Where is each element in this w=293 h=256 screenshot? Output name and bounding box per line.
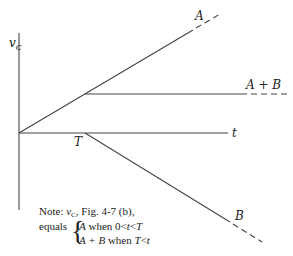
ramp-superposition-diagram: vC t A A + B B T Note: vC, Fig. 4-7 (b),…: [0, 0, 293, 256]
note-case-1: A when 0<t<T: [78, 220, 143, 232]
ramp-b-extension: [233, 224, 262, 242]
x-axis-label: t: [232, 126, 237, 140]
ramp-b-label: B: [234, 209, 244, 223]
note-line-1: Note: vC, Fig. 4-7 (b),: [39, 205, 135, 219]
note-equals: equals: [39, 220, 67, 232]
breakpoint-t-label: T: [74, 135, 83, 149]
ramp-a-label: A: [194, 9, 204, 23]
ramp-a-line: [19, 30, 193, 133]
sum-a-plus-b-label: A + B: [245, 78, 281, 92]
y-axis-label: vC: [9, 36, 22, 52]
note-case-2: A + B when T<t: [78, 234, 151, 246]
